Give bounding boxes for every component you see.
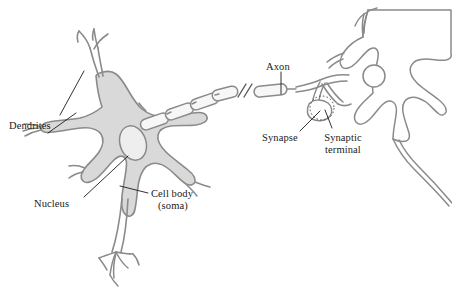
label-synapse: Synapse (262, 132, 298, 144)
postsynaptic-neuron (340, 10, 451, 141)
axon-break-symbol (238, 84, 252, 97)
label-synaptic-terminal-line2: terminal (313, 144, 373, 156)
neuron-diagram: Dendrites Nucleus Cell body (soma) Axon … (0, 0, 452, 302)
dendrite-bottom-tuft (99, 252, 139, 286)
label-cell-body-line2: (soma) (158, 200, 188, 212)
myelin-sheath (139, 83, 287, 131)
label-axon: Axon (266, 61, 290, 73)
dendrite-upper-left (77, 29, 108, 77)
postsynaptic-axon (393, 139, 452, 206)
postsynaptic-nucleus (363, 65, 385, 87)
label-synaptic-terminal-line1: Synaptic (313, 132, 373, 144)
label-cell-body-line1: Cell body (151, 188, 193, 200)
leader-dendrites-upper (60, 71, 84, 115)
label-nucleus: Nucleus (34, 198, 69, 210)
presynaptic-neuron (23, 29, 351, 286)
label-dendrites: Dendrites (9, 120, 51, 132)
neuron-illustration (0, 0, 452, 302)
